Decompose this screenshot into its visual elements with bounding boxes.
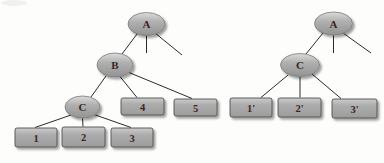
- node-left-3: 3: [111, 128, 153, 147]
- node-left-C-label: C: [79, 101, 87, 113]
- node-left-A-label: A: [143, 18, 151, 30]
- node-left-1-label: 1: [33, 133, 38, 144]
- right-tree: A C 1' 2' 3': [230, 12, 377, 118]
- node-right-C: C: [281, 54, 320, 77]
- node-left-5-label: 5: [193, 103, 198, 114]
- node-right-3p-label: 3': [350, 104, 358, 115]
- edge-A-right-stub: [155, 33, 182, 55]
- edge-B-4: [120, 77, 137, 98]
- edge-C-2: [83, 118, 84, 127]
- edge-A-B: [122, 34, 137, 54]
- node-right-A: A: [315, 12, 353, 35]
- node-left-C: C: [65, 96, 100, 118]
- node-right-1p-label: 1': [247, 103, 255, 114]
- edge-C-1: [35, 115, 71, 128]
- scan-artifact: [1, 0, 27, 6]
- node-left-5: 5: [174, 99, 217, 116]
- node-right-3p: 3': [332, 99, 377, 118]
- edge-C-1p: [261, 75, 288, 98]
- edge-A-right-stub: [343, 33, 371, 53]
- left-tree-edges: [35, 33, 192, 128]
- figure-canvas: A B C 4 5 1 2: [0, 0, 384, 163]
- node-left-A: A: [128, 13, 165, 36]
- node-right-2p: 2': [278, 98, 321, 117]
- node-right-2p-label: 2': [295, 103, 303, 114]
- node-right-A-label: A: [330, 18, 338, 30]
- tree-diagram-svg: A B C 4 5 1 2: [0, 0, 384, 163]
- edge-C-3: [94, 115, 131, 128]
- node-left-4: 4: [121, 98, 164, 115]
- node-left-4-label: 4: [140, 102, 146, 113]
- edge-C-3p: [312, 74, 341, 99]
- left-tree: A B C 4 5 1 2: [15, 13, 217, 148]
- node-left-2: 2: [62, 127, 105, 147]
- node-right-1p: 1': [230, 98, 272, 117]
- node-left-B: B: [97, 53, 133, 77]
- node-right-C-label: C: [296, 59, 304, 71]
- node-left-2-label: 2: [81, 132, 86, 143]
- node-left-1: 1: [15, 128, 57, 147]
- edge-B-5: [129, 73, 192, 99]
- edge-B-C: [91, 76, 106, 97]
- node-left-3-label: 3: [129, 133, 134, 144]
- edge-A-C: [306, 33, 323, 54]
- node-left-B-label: B: [111, 59, 119, 71]
